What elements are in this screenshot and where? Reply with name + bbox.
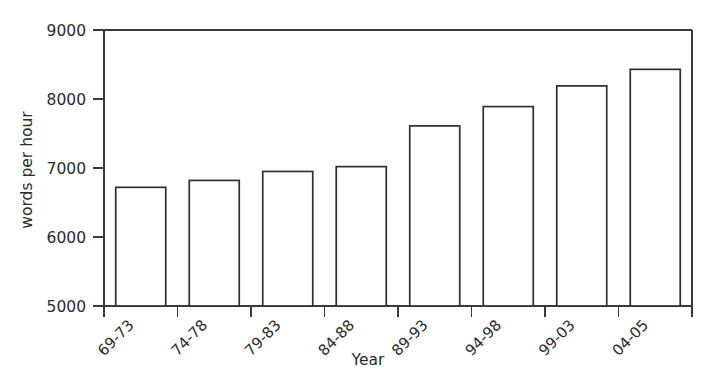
x-tick-label: 69-73 <box>94 316 138 360</box>
x-tick-label: 94-98 <box>462 316 506 360</box>
y-tick-label: 9000 <box>47 22 86 40</box>
chart-canvas: 50006000700080009000 69-7374-7879-8384-8… <box>0 0 720 389</box>
x-tick-label: 99-03 <box>535 316 579 360</box>
y-axis-tick-labels: 50006000700080009000 <box>47 22 86 316</box>
bar <box>263 171 313 306</box>
bar <box>557 86 607 306</box>
bar <box>410 126 460 306</box>
bar-series <box>116 69 681 306</box>
x-axis-ticks <box>104 306 692 317</box>
bar <box>189 180 239 306</box>
y-tick-label: 5000 <box>47 298 86 316</box>
bar <box>116 187 166 306</box>
y-axis-ticks <box>93 30 104 306</box>
x-axis-title: Year <box>351 351 385 369</box>
bar-chart-figure: 50006000700080009000 69-7374-7879-8384-8… <box>0 0 720 389</box>
y-axis-title: words per hour <box>18 111 36 229</box>
y-tick-label: 7000 <box>47 160 86 178</box>
bar <box>336 167 386 306</box>
y-tick-label: 6000 <box>47 229 86 247</box>
bar <box>483 107 533 306</box>
bar <box>630 69 680 306</box>
x-tick-label: 04-05 <box>609 316 653 360</box>
x-tick-label: 74-78 <box>168 316 212 360</box>
x-tick-label: 89-93 <box>388 316 432 360</box>
y-tick-label: 8000 <box>47 91 86 109</box>
x-tick-label: 79-83 <box>241 316 285 360</box>
